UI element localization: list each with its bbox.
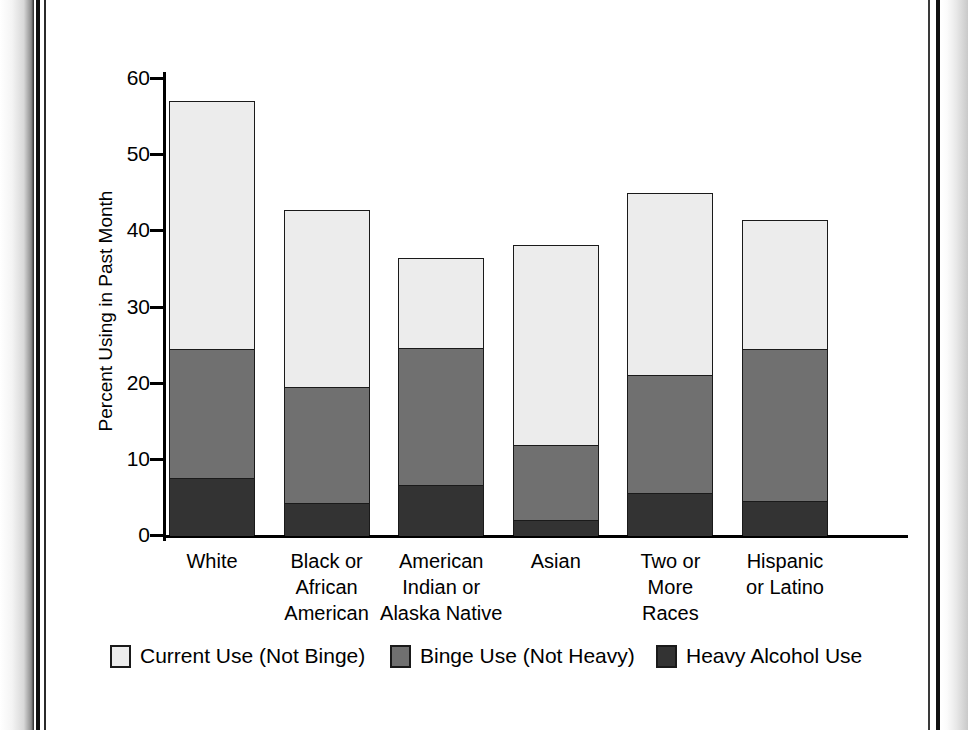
legend-swatch-light-icon — [110, 645, 131, 668]
segment-divider — [170, 349, 254, 350]
scanned-page: Percent Using in Past Month 605040302010… — [0, 0, 968, 730]
x-axis-label-line: Alaska Native — [366, 600, 516, 626]
y-tick-label-wrap: 60 — [98, 78, 150, 79]
segment-current-use-not-binge — [170, 102, 254, 350]
segment-divider — [743, 501, 827, 502]
segment-heavy-alcohol-use — [170, 478, 254, 536]
y-tick-label: 30 — [108, 296, 150, 317]
y-tick-label-wrap: 30 — [98, 307, 150, 308]
y-tick-label: 10 — [108, 448, 150, 469]
segment-divider — [399, 485, 483, 486]
segment-current-use-not-binge — [743, 221, 827, 348]
y-tick-mark — [150, 458, 164, 461]
y-tick-mark — [150, 153, 164, 156]
bar-black-or-african-american — [284, 210, 370, 535]
y-tick-mark — [150, 229, 164, 232]
segment-current-use-not-binge — [285, 211, 369, 387]
page-border-left — [36, 0, 40, 730]
y-tick-label-wrap: 40 — [98, 230, 150, 231]
legend-item-current-use-not-binge: Current Use (Not Binge) — [110, 644, 365, 668]
bar-hispanic-or-latino — [742, 220, 828, 535]
segment-divider — [743, 349, 827, 350]
segment-divider — [170, 478, 254, 479]
segment-current-use-not-binge — [399, 259, 483, 348]
bar-asian — [513, 245, 599, 535]
legend-swatch-medium-icon — [390, 645, 411, 668]
x-axis-label-line: Races — [595, 600, 745, 626]
y-tick-label-wrap: 50 — [98, 154, 150, 155]
page-gutter-shadow-left — [0, 0, 34, 730]
segment-binge-use-not-heavy — [170, 349, 254, 478]
segment-heavy-alcohol-use — [399, 485, 483, 536]
bar-white — [169, 101, 255, 535]
segment-heavy-alcohol-use — [743, 501, 827, 536]
bar-american-indian-or-alaska-native — [398, 258, 484, 535]
y-tick-label: 20 — [108, 372, 150, 393]
segment-divider — [285, 503, 369, 504]
segment-divider — [628, 375, 712, 376]
legend-label: Heavy Alcohol Use — [686, 644, 862, 668]
legend-label: Binge Use (Not Heavy) — [420, 644, 635, 668]
y-tick-mark — [150, 306, 164, 309]
page-border-right — [936, 0, 940, 730]
y-tick-label: 60 — [108, 67, 150, 88]
segment-divider — [399, 348, 483, 349]
segment-divider — [628, 493, 712, 494]
y-tick-label: 0 — [108, 524, 150, 545]
chart-legend: Current Use (Not Binge)Binge Use (Not He… — [46, 640, 928, 686]
y-tick-label-wrap: 10 — [98, 459, 150, 460]
bar-two-or-more-races — [627, 193, 713, 535]
x-axis-label-line: Indian or — [366, 574, 516, 600]
x-axis-label-hispanic-or-latino: Hispanicor Latino — [710, 548, 860, 600]
y-tick-mark — [150, 77, 164, 80]
legend-item-heavy-alcohol-use: Heavy Alcohol Use — [656, 644, 862, 668]
segment-current-use-not-binge — [514, 246, 598, 445]
y-tick-label: 40 — [108, 219, 150, 240]
segment-binge-use-not-heavy — [399, 348, 483, 485]
segment-divider — [285, 387, 369, 388]
y-tick-label-wrap: 20 — [98, 383, 150, 384]
page-border-right-inner — [928, 0, 930, 730]
segment-divider — [514, 520, 598, 521]
legend-item-binge-use-not-heavy: Binge Use (Not Heavy) — [390, 644, 635, 668]
x-axis-label-line: Hispanic — [710, 548, 860, 574]
legend-label: Current Use (Not Binge) — [140, 644, 365, 668]
y-tick-mark — [150, 534, 164, 537]
segment-heavy-alcohol-use — [628, 493, 712, 536]
segment-binge-use-not-heavy — [743, 349, 827, 501]
segment-divider — [514, 445, 598, 446]
y-tick-mark — [150, 382, 164, 385]
page-gutter-shadow-right — [942, 0, 968, 730]
legend-swatch-dark-icon — [656, 645, 677, 668]
y-tick-label: 50 — [108, 143, 150, 164]
y-tick-label-wrap: 0 — [98, 535, 150, 536]
segment-binge-use-not-heavy — [514, 445, 598, 520]
segment-binge-use-not-heavy — [628, 375, 712, 494]
stacked-bar-chart: Percent Using in Past Month 605040302010… — [46, 0, 928, 730]
segment-heavy-alcohol-use — [285, 503, 369, 536]
segment-current-use-not-binge — [628, 194, 712, 375]
segment-binge-use-not-heavy — [285, 387, 369, 504]
x-axis-label-line: or Latino — [710, 574, 860, 600]
segment-heavy-alcohol-use — [514, 520, 598, 536]
